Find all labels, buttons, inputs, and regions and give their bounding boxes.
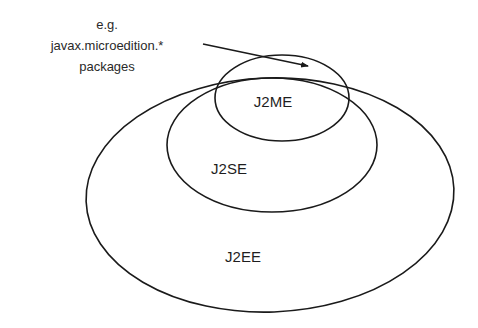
j2me-label: J2ME [254, 93, 292, 110]
j2se-label: J2SE [211, 160, 247, 177]
annotation-line-1: e.g. [51, 14, 164, 35]
j2ee-label: J2EE [225, 248, 261, 265]
annotation-line-2: javax.microedition.* [51, 35, 164, 56]
annotation-note: e.g. javax.microedition.* packages [51, 14, 164, 77]
annotation-line-3: packages [51, 56, 164, 77]
